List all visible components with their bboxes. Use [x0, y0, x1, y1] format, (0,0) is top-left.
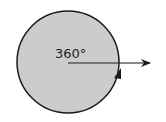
circle [17, 11, 119, 113]
angle-label: 360° [55, 46, 86, 61]
full-angle-diagram: 360° [0, 0, 166, 122]
